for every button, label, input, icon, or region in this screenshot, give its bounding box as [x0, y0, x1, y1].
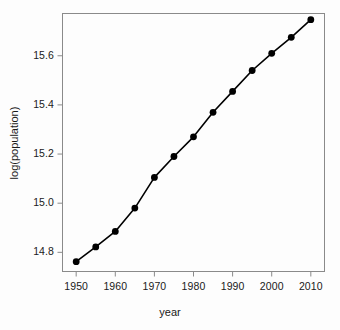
data-point	[210, 109, 217, 116]
data-point	[268, 50, 275, 57]
data-point	[73, 258, 80, 265]
y-axis-ticks	[58, 56, 63, 253]
data-point	[151, 174, 158, 181]
data-point	[112, 228, 119, 235]
data-line	[76, 20, 311, 262]
data-point	[249, 67, 256, 74]
data-point	[190, 133, 197, 140]
data-point-markers	[73, 16, 314, 265]
chart-figure: 14.815.015.215.415.6 1950196019701980199…	[0, 0, 340, 330]
x-axis-label: year	[0, 306, 340, 318]
data-point	[131, 205, 138, 212]
x-axis-ticks	[76, 272, 311, 277]
data-point	[171, 153, 178, 160]
data-point	[307, 16, 314, 23]
x-tick-label: 2010	[286, 280, 336, 292]
y-axis-label: log(population)	[8, 106, 20, 179]
plot-frame	[63, 14, 325, 272]
y-axis-label-container: log(population)	[0, 0, 28, 285]
data-point	[92, 244, 99, 251]
data-point	[229, 88, 236, 95]
data-point	[288, 34, 295, 41]
